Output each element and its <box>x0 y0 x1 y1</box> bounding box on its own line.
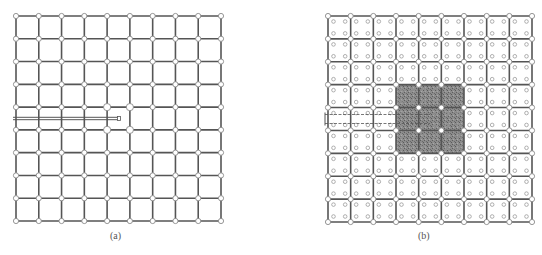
inner-node <box>513 134 517 138</box>
inner-node <box>332 65 336 69</box>
inner-node <box>400 203 404 207</box>
inner-node <box>377 20 381 24</box>
inner-node <box>377 169 381 173</box>
grid-node <box>105 59 110 64</box>
inner-node <box>366 203 370 207</box>
inner-node <box>434 157 438 161</box>
inner-node <box>389 134 393 138</box>
inner-node <box>513 100 517 104</box>
grid-node <box>325 13 330 18</box>
inner-node <box>422 65 426 69</box>
grid-node <box>82 105 87 110</box>
inner-node <box>422 169 426 173</box>
inner-node <box>445 215 449 219</box>
inner-node <box>513 169 517 173</box>
inner-node <box>354 100 358 104</box>
inner-node <box>490 157 494 161</box>
grid-node <box>484 151 489 156</box>
inner-node <box>490 100 494 104</box>
inner-node <box>434 180 438 184</box>
inner-node <box>389 169 393 173</box>
grid-node <box>507 13 512 18</box>
grid-node <box>348 105 353 110</box>
grid-node <box>507 219 512 224</box>
inner-node <box>445 169 449 173</box>
inner-node <box>513 180 517 184</box>
grid-node <box>416 59 421 64</box>
grid-node <box>82 36 87 41</box>
inner-node <box>400 20 404 24</box>
grid-node <box>13 218 18 223</box>
inner-node <box>434 77 438 81</box>
inner-node <box>366 180 370 184</box>
inner-node <box>366 65 370 69</box>
inner-node <box>400 54 404 58</box>
grid-node <box>150 196 155 201</box>
grid-node <box>59 173 64 178</box>
grid-node <box>196 127 201 132</box>
grid-node <box>105 218 110 223</box>
inner-node <box>525 123 529 127</box>
inner-node <box>490 180 494 184</box>
inner-node <box>457 157 461 161</box>
inner-node <box>343 32 347 36</box>
inner-node <box>525 77 529 81</box>
grid-node <box>393 59 398 64</box>
inner-node <box>332 77 336 81</box>
panel-a-grid <box>13 13 224 223</box>
inner-node <box>457 65 461 69</box>
grid-node <box>36 150 41 155</box>
grid-node <box>105 173 110 178</box>
inner-node <box>422 77 426 81</box>
inner-node <box>354 32 358 36</box>
inner-node <box>366 77 370 81</box>
grid-node <box>173 36 178 41</box>
inner-node <box>479 77 483 81</box>
grid-node <box>36 218 41 223</box>
grid-node <box>393 219 398 224</box>
grid-node <box>461 105 466 110</box>
grid-node <box>13 196 18 201</box>
inner-node <box>411 77 415 81</box>
inner-node <box>343 180 347 184</box>
inner-node <box>525 111 529 115</box>
inner-node <box>343 54 347 58</box>
inner-node <box>479 192 483 196</box>
inner-node <box>377 203 381 207</box>
inner-node <box>411 65 415 69</box>
inner-node <box>377 215 381 219</box>
inner-node <box>445 20 449 24</box>
inner-node <box>389 180 393 184</box>
grid-node <box>484 197 489 202</box>
grid-node <box>439 36 444 41</box>
inner-node <box>354 77 358 81</box>
inner-node <box>479 215 483 219</box>
panel-b-grid <box>325 13 535 224</box>
inner-node <box>502 43 506 47</box>
inner-node <box>525 43 529 47</box>
grid-node <box>196 196 201 201</box>
grid-node <box>218 36 223 41</box>
grid-node <box>371 82 376 87</box>
grid-node <box>105 82 110 87</box>
grid-node <box>393 82 398 87</box>
grid-node <box>529 219 534 224</box>
inner-node <box>479 88 483 92</box>
grid-node <box>393 174 398 179</box>
inner-node <box>389 54 393 58</box>
inner-node <box>332 32 336 36</box>
inner-node <box>354 88 358 92</box>
inner-node <box>468 77 472 81</box>
inner-node <box>457 20 461 24</box>
inner-node <box>490 203 494 207</box>
grid-node <box>150 105 155 110</box>
grid-node <box>127 13 132 18</box>
grid-node <box>82 82 87 87</box>
inner-node <box>525 32 529 36</box>
inner-node <box>445 65 449 69</box>
grid-node <box>325 151 330 156</box>
inner-node <box>502 192 506 196</box>
grid-node <box>529 197 534 202</box>
inner-node <box>525 134 529 138</box>
grid-node <box>218 173 223 178</box>
